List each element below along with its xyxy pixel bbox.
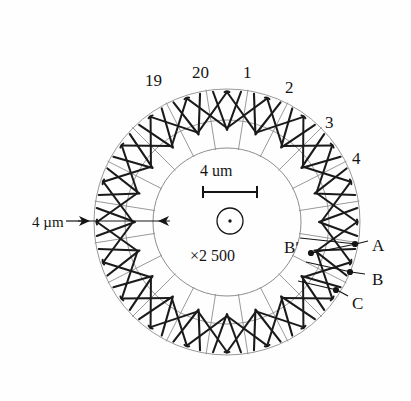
terminal-dot-b <box>347 269 353 275</box>
coil-diagonal <box>316 193 357 222</box>
coil-inner-v <box>301 276 340 310</box>
coil-diagonal-return <box>198 311 227 352</box>
terminal-dot-c <box>333 287 339 293</box>
slot-label-2: 2 <box>285 79 294 96</box>
terminal-label-a: A <box>372 237 384 254</box>
coil-inner-v <box>113 134 152 168</box>
coil-inner-v <box>97 208 135 236</box>
magnification-label: ×2 500 <box>190 248 235 264</box>
coil-inner-v <box>319 208 357 236</box>
coil-diagonal-return <box>97 193 138 222</box>
slot-label-1: 1 <box>243 64 252 81</box>
coil-inner-v <box>281 108 315 147</box>
center-mark-dot <box>228 219 231 222</box>
coil-inner-v <box>139 108 173 147</box>
coil-inner-v <box>113 276 152 310</box>
slot-label-4: 4 <box>352 150 361 167</box>
scale-bar-label: 4 um <box>200 163 232 179</box>
slot-label-19: 19 <box>145 72 162 89</box>
slot-label-3: 3 <box>325 114 334 131</box>
dimension-label: 4 µm <box>32 215 64 230</box>
coil-diagonal <box>198 92 227 133</box>
scale-bar <box>203 186 257 198</box>
coil-diagonal <box>97 222 138 251</box>
stator-diagram <box>0 0 411 401</box>
terminal-label-c: C <box>352 295 363 312</box>
center-mark-icon <box>217 208 243 234</box>
terminal-label-b: B <box>372 271 383 288</box>
terminal-label-b: B′ <box>284 239 299 256</box>
coil-diagonal <box>227 311 256 352</box>
terminal-dot-a <box>352 241 358 247</box>
coil-inner-v <box>301 134 340 168</box>
dimension-arrow <box>66 216 170 226</box>
figure-canvas: 19201234 ABCB′ 4 um ×2 500 4 µm <box>0 0 411 401</box>
coil-diagonal-return <box>227 92 256 133</box>
terminal-dot-b-prime <box>308 250 314 256</box>
leader-b-out <box>351 272 365 274</box>
coil-inner-v <box>281 296 315 335</box>
coil-inner-v <box>213 92 241 130</box>
coil-inner-v <box>139 296 173 335</box>
slot-label-20: 20 <box>192 64 209 81</box>
coil-diagonal-return <box>316 222 357 251</box>
coil-inner-v <box>213 314 241 352</box>
